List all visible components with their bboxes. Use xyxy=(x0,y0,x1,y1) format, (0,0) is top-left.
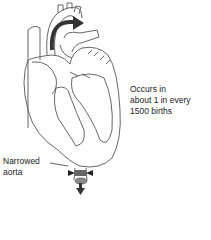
pulmonary-artery xyxy=(60,30,99,58)
incidence-line-1: Occurs in xyxy=(130,84,210,95)
aorta-label-line-2: aorta xyxy=(3,167,63,178)
right-ventricle xyxy=(54,87,84,146)
heart-outline xyxy=(24,47,120,167)
aorta-label-line-1: Narrowed xyxy=(3,156,63,167)
left-ventricle xyxy=(72,74,113,142)
incidence-line-2: about 1 in every xyxy=(130,95,210,106)
vena-cava xyxy=(28,26,40,128)
incidence-line-3: 1500 births xyxy=(130,106,210,117)
incidence-note: Occurs in about 1 in every 1500 births xyxy=(130,84,210,117)
constriction xyxy=(68,168,93,195)
narrowed-aorta-label: Narrowed aorta xyxy=(3,156,63,178)
